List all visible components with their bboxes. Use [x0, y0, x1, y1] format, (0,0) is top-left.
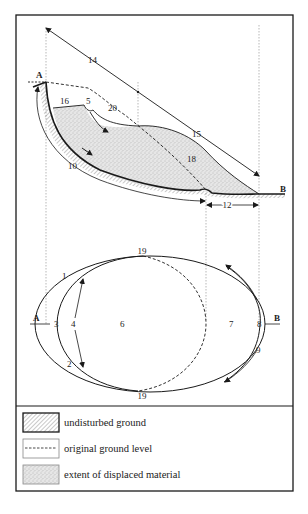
plan-dashed-boundary — [138, 256, 206, 391]
label-1: 1 — [62, 271, 67, 281]
arrow-4-up — [75, 279, 83, 318]
label-7: 7 — [229, 319, 234, 329]
legend-item-displaced: extent of displaced material — [23, 465, 180, 484]
label-19-bottom: 19 — [138, 391, 148, 401]
label-9: 9 — [256, 345, 261, 355]
label-15: 15 — [192, 129, 202, 139]
label-12: 12 — [223, 200, 232, 210]
label-8: 8 — [257, 319, 262, 329]
label-B-plan: B — [274, 313, 280, 323]
legend-label-original-ground: original ground level — [64, 443, 152, 454]
label-2: 2 — [67, 359, 72, 369]
label-3: 3 — [54, 319, 59, 329]
legend-item-original-ground: original ground level — [23, 439, 152, 458]
label-16: 16 — [60, 96, 70, 106]
label-A-plan: A — [33, 313, 40, 323]
label-20: 20 — [108, 103, 118, 113]
label-10: 10 — [68, 161, 78, 171]
plan-inner-boundary — [57, 256, 143, 391]
legend-label-displaced: extent of displaced material — [64, 469, 180, 480]
label-A-section: A — [36, 70, 43, 80]
legend-item-undisturbed: undisturbed ground — [23, 413, 147, 432]
label-4: 4 — [71, 319, 76, 329]
label-B-section: B — [280, 184, 286, 194]
plan-view: 19 19 1 2 3 4 6 7 8 9 A B — [30, 246, 280, 401]
legend: undisturbed ground original ground level… — [23, 413, 180, 484]
label-5: 5 — [86, 96, 91, 106]
landslide-diagram: A B 14 15 16 5 20 18 10 12 12 19 19 1 2 … — [0, 0, 308, 514]
label-14: 14 — [88, 55, 98, 65]
label-6: 6 — [120, 319, 125, 329]
arrow-4-down — [75, 330, 83, 367]
legend-label-undisturbed: undisturbed ground — [64, 417, 147, 428]
label-18: 18 — [187, 154, 197, 164]
label-19-top: 19 — [138, 246, 148, 256]
